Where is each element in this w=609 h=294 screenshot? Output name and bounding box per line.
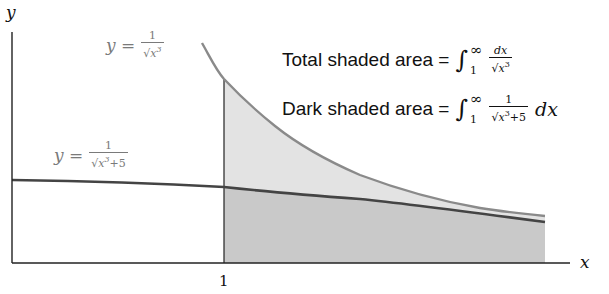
upper-curve-lhs: y = — [106, 35, 135, 55]
dark-area-text: Dark shaded area = — [282, 98, 449, 120]
lower-curve-lhs: y = — [54, 145, 83, 165]
integral-comparison-diagram: y x 1 y = 1 √x3 y = 1 √x3+5 Total shaded… — [0, 0, 609, 294]
upper-limit: ∞ — [470, 92, 483, 106]
upper-limit: ∞ — [470, 43, 483, 57]
lower-den-suffix: +5 — [110, 157, 126, 170]
upper-den-exp: 3 — [157, 45, 162, 54]
lower-limit: 1 — [470, 65, 483, 76]
lower-curve-denominator: √x3+5 — [89, 152, 128, 170]
total-area-equation: Total shaded area = ∫ ∞ 1 dx √x3 — [282, 43, 515, 76]
lower-curve-numerator: 1 — [103, 140, 114, 152]
total-integrand: dx √x3 — [489, 45, 511, 75]
dark-integrand: 1 √x3+5 — [489, 94, 528, 124]
y-axis-label: y — [6, 2, 16, 22]
upper-curve-denominator: √x3 — [141, 42, 163, 60]
lower-curve-fraction: 1 √x3+5 — [89, 140, 128, 170]
dark-denominator: √x3+5 — [489, 106, 528, 124]
dark-area-equation: Dark shaded area = ∫ ∞ 1 1 √x3+5 dx — [282, 92, 558, 125]
upper-curve-fraction: 1 √x3 — [141, 30, 163, 60]
dark-numerator: 1 — [503, 94, 514, 106]
total-numerator: dx — [492, 45, 509, 57]
upper-curve-label: y = 1 √x3 — [106, 30, 167, 60]
dark-den-suffix: +5 — [510, 110, 526, 123]
x-axis-label: x — [580, 252, 590, 272]
upper-curve-numerator: 1 — [147, 30, 158, 42]
lower-limit: 1 — [470, 114, 483, 125]
integral-sign: ∫ — [455, 95, 468, 123]
integral-sign: ∫ — [455, 46, 468, 74]
integral-limits: ∞ 1 — [470, 92, 483, 125]
total-area-text: Total shaded area = — [282, 49, 449, 71]
total-den-exp: 3 — [505, 60, 510, 69]
total-denominator: √x3 — [489, 57, 511, 75]
dark-dx: dx — [535, 98, 558, 120]
x-tick-1: 1 — [219, 272, 229, 290]
integral-limits: ∞ 1 — [470, 43, 483, 76]
lower-curve-label: y = 1 √x3+5 — [54, 140, 131, 170]
